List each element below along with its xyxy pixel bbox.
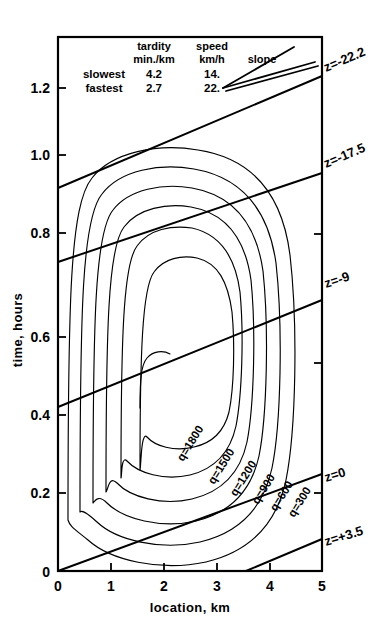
y-tick-label-0_6: 0.6: [31, 329, 51, 345]
x-tick-label-2: 2: [160, 578, 168, 594]
x-tick-label-3: 3: [213, 578, 221, 594]
x-tick-label-0: 0: [54, 578, 62, 594]
z-label-minus-17-5: z=-17.5: [321, 140, 367, 171]
contour-q1500: [121, 227, 242, 478]
z-label-minus-9: z=-9: [322, 269, 351, 291]
x-tick-label-1: 1: [107, 578, 115, 594]
y-tick-label-1_0: 1.0: [31, 147, 51, 163]
y-tick-label-0_8: 0.8: [31, 225, 51, 241]
legend-row-fastest-tardity: 2.7: [146, 82, 162, 94]
x-axis-title: location, km: [150, 600, 231, 615]
z-line-minus-17-5: [58, 173, 322, 262]
legend-header-tardity-name: tardity: [137, 40, 172, 52]
legend-row-slowest-name: slowest: [83, 68, 125, 80]
x-tick-label-4: 4: [266, 578, 274, 594]
legend-table: tardity min./km speed km/h slope slowest…: [83, 40, 318, 94]
contour-plot-figure: 1.2 1.0 0.8 0.6 0.4 0.2 0 0 1 2 3 4 5 lo…: [0, 0, 384, 632]
contour-inner-hook: [140, 352, 170, 408]
y-tick-label-0: 0: [42, 564, 50, 580]
legend-row-fastest-name: fastest: [85, 82, 122, 94]
legend-row-slowest-speed: 14.: [204, 68, 220, 80]
z-label-zero: z=0: [322, 464, 347, 485]
z-label-plus-3-5: z=+3.5: [322, 523, 364, 549]
z-line-plus-3-5: [246, 539, 322, 571]
z-line-minus-9: [58, 300, 322, 407]
y-tick-label-0_2: 0.2: [31, 485, 51, 501]
contour-q600: [80, 167, 280, 545]
y-tick-label-0_4: 0.4: [31, 407, 51, 423]
y-tick-label-1_2: 1.2: [31, 80, 51, 96]
legend-header-tardity-unit: min./km: [133, 53, 175, 65]
y-axis-ticks: [58, 88, 66, 493]
contour-label-q1800: q=1800: [175, 423, 206, 463]
legend-row-fastest-speed: 22.: [204, 82, 220, 94]
right-edge-ticks: [314, 234, 322, 493]
legend-header-speed-unit: km/h: [199, 53, 225, 65]
z-label-minus-22-2: z=-22.2: [321, 44, 367, 75]
legend-header-speed-name: speed: [196, 40, 228, 52]
y-axis-title: time, hours: [10, 293, 25, 367]
plot-canvas: 1.2 1.0 0.8 0.6 0.4 0.2 0 0 1 2 3 4 5 lo…: [0, 0, 384, 632]
legend-row-slowest-tardity: 4.2: [146, 68, 162, 80]
x-tick-label-5: 5: [318, 578, 326, 594]
